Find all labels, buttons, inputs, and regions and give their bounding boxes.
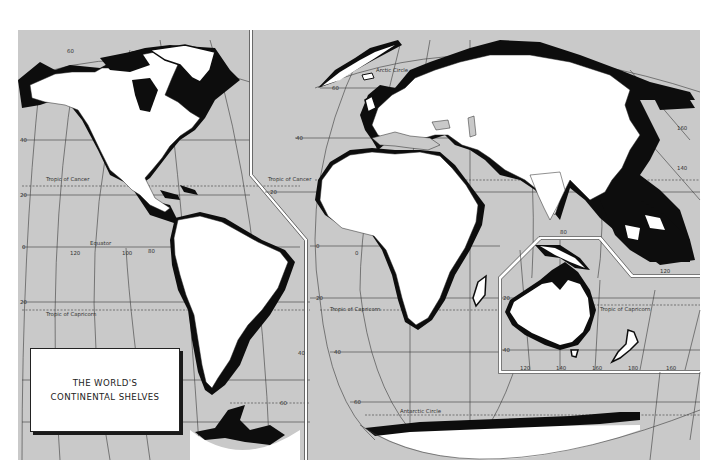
tropic-of-cancer-label-west: Tropic of Cancer [46,176,89,182]
lat-tick: 20 [20,299,27,305]
map-title-box: THE WORLD'S CONTINENTAL SHELVES [30,348,180,432]
lat-tick: 60 [67,48,74,54]
lat-tick: 60 [332,85,339,91]
lon-tick: 80 [148,248,155,254]
tropic-of-capricorn-label-africa: Tropic of Capricorn [330,306,380,312]
equator-label: Equator [90,240,111,246]
map-title-line-2: CONTINENTAL SHELVES [51,390,160,404]
lat-tick: 0 [316,243,319,249]
tropic-of-capricorn-label-west: Tropic of Capricorn [46,311,96,317]
map-title-line-1: THE WORLD'S [73,376,138,390]
lon-tick: 100 [122,250,132,256]
lon-tick: 80 [560,229,567,235]
lat-tick: 20 [316,295,323,301]
lon-tick: 120 [520,365,530,371]
lon-tick: 120 [70,250,80,256]
lat-tick: 40 [503,347,510,353]
lat-tick: 60 [280,400,287,406]
lon-tick: 160 [677,125,687,131]
lon-tick: 140 [556,365,566,371]
lat-tick: 60 [354,399,361,405]
tropic-of-cancer-label-east: Tropic of Cancer [268,176,311,182]
lat-tick: 20 [20,192,27,198]
lon-tick: 0 [355,250,358,256]
arctic-circle-label: Arctic Circle [376,67,408,73]
lat-tick: 20 [270,189,277,195]
lat-tick: 0 [22,244,25,250]
lat-tick: 40 [334,349,341,355]
lat-tick: 40 [296,135,303,141]
tropic-of-capricorn-label-australia: Tropic of Capricorn [600,306,650,312]
antarctic-circle-label: Antarctic Circle [400,408,441,414]
lat-tick: 40 [298,350,305,356]
lon-tick: 160 [592,365,602,371]
lon-tick: 160 [666,365,676,371]
lon-tick: 140 [677,165,687,171]
lon-tick: 120 [660,268,670,274]
lon-tick: 180 [628,365,638,371]
lat-tick: 20 [503,295,510,301]
lat-tick: 40 [20,137,27,143]
